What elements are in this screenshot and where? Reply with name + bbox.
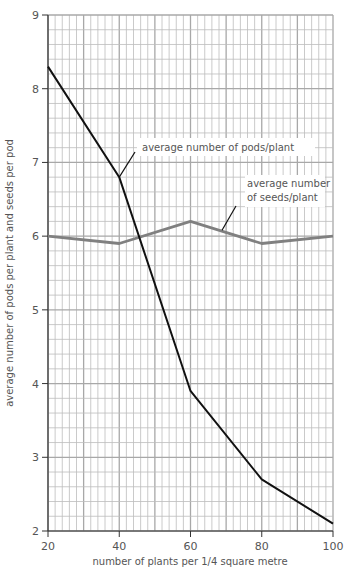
x-tick-label: 40 — [112, 540, 126, 553]
y-tick-label: 5 — [32, 304, 39, 317]
y-tick-label: 7 — [32, 156, 39, 169]
seeds-line-label: average number — [247, 178, 331, 189]
x-tick-label: 80 — [255, 540, 269, 553]
x-axis-title: number of plants per 1/4 square metre — [92, 556, 287, 567]
y-tick-label: 2 — [32, 525, 39, 538]
y-tick-label: 8 — [32, 83, 39, 96]
pods-line-label: average number of pods/plant — [142, 142, 294, 153]
y-axis-title: average number of pods per plant and see… — [4, 139, 15, 407]
line-chart: 2345678920406080100 average number of po… — [0, 0, 350, 580]
y-tick-label: 6 — [32, 230, 39, 243]
x-tick-label: 20 — [41, 540, 55, 553]
x-tick-label: 60 — [184, 540, 198, 553]
x-tick-label: 100 — [323, 540, 344, 553]
y-tick-label: 9 — [32, 9, 39, 22]
seeds-line-label: of seeds/plant — [247, 192, 318, 203]
y-tick-label: 4 — [32, 378, 39, 391]
y-tick-label: 3 — [32, 451, 39, 464]
grid — [48, 15, 333, 531]
